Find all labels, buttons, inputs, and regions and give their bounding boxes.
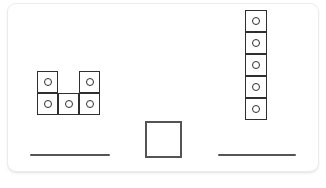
puzzle-card — [7, 3, 319, 172]
circle-icon — [44, 78, 52, 86]
empty-target-square[interactable] — [145, 121, 182, 158]
circle-icon — [252, 61, 260, 69]
u-shape-piece-bottom-left-cell[interactable] — [37, 93, 58, 115]
circle-icon — [252, 17, 260, 25]
circle-icon — [44, 100, 52, 108]
vertical-column-piece-cell-5-cell[interactable] — [245, 98, 267, 120]
u-shape-piece-top-left-cell[interactable] — [37, 71, 58, 93]
circle-icon — [252, 105, 260, 113]
vertical-column-piece-cell-3-cell[interactable] — [245, 54, 267, 76]
u-shape-piece-bottom-middle-cell[interactable] — [58, 93, 79, 115]
vertical-column-piece-cell-2-cell[interactable] — [245, 32, 267, 54]
circle-icon — [65, 100, 73, 108]
vertical-column-piece-cell-4-cell[interactable] — [245, 76, 267, 98]
circle-icon — [252, 39, 260, 47]
screenshot-canvas — [0, 0, 326, 188]
circle-icon — [86, 78, 94, 86]
circle-icon — [86, 100, 94, 108]
u-shape-piece-bottom-right-cell[interactable] — [79, 93, 100, 115]
vertical-column-piece-cell-1-cell[interactable] — [245, 10, 267, 32]
left-answer-line[interactable] — [30, 154, 110, 156]
u-shape-piece-top-right-cell[interactable] — [79, 71, 100, 93]
right-answer-line[interactable] — [218, 154, 296, 156]
circle-icon — [252, 83, 260, 91]
